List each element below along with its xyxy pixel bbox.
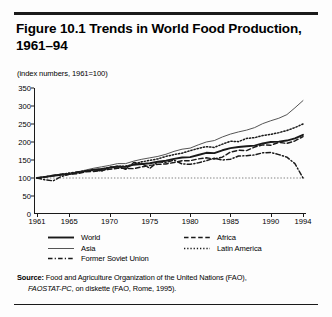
legend-item-world: World (48, 233, 149, 243)
bottom-rule (14, 304, 318, 305)
x-axis-tick-mark (230, 214, 231, 217)
legend-label: World (81, 233, 100, 242)
chart-plot-area: 0501001502002503003501961196519701975198… (34, 88, 306, 214)
legend-column-1: WorldAsiaFormer Soviet Union (48, 233, 149, 265)
series-line-latin-america (37, 124, 303, 178)
x-axis-tick-mark (37, 214, 38, 217)
source-text: Food and Agriculture Organization of the… (44, 273, 247, 282)
x-axis-tick-mark (303, 214, 304, 217)
legend-item-latin-america: Latin America (184, 244, 262, 254)
series-line-asia (37, 101, 303, 178)
y-axis-tick-mark (31, 106, 34, 107)
figure-container: Figure 10.1 Trends in World Food Product… (0, 0, 332, 317)
source-label: Source: (17, 273, 44, 282)
x-axis-tick-mark (110, 214, 111, 217)
legend-label: Former Soviet Union (81, 254, 149, 263)
legend-item-africa: Africa (184, 233, 262, 243)
legend-label: Latin America (217, 244, 262, 253)
legend-label: Africa (217, 233, 236, 242)
legend-swatch-icon (48, 254, 74, 263)
x-axis-tick-mark (69, 214, 70, 217)
y-axis-tick-mark (31, 124, 34, 125)
y-axis-tick-mark (31, 196, 34, 197)
series-line-former-soviet-union (37, 152, 303, 180)
legend-column-2: AfricaLatin America (184, 233, 262, 254)
source-tail: , on diskette (FAO, Rome, 1995). (71, 284, 176, 293)
source-note: Source: Food and Agriculture Organizatio… (17, 273, 318, 294)
legend-swatch-icon (184, 233, 210, 242)
y-axis-tick-mark (31, 178, 34, 179)
legend-swatch-icon (48, 233, 74, 242)
y-axis-tick-mark (31, 88, 34, 89)
x-axis-tick-mark (271, 214, 272, 217)
legend-item-asia: Asia (48, 244, 149, 254)
figure-title: Figure 10.1 Trends in World Food Product… (16, 20, 316, 55)
top-rule (14, 12, 318, 15)
y-axis-tick-mark (31, 160, 34, 161)
source-publication: FAOSTAT-PC (28, 284, 71, 293)
axis-units-note: (index numbers, 1961=100) (17, 69, 108, 78)
source-continuation: FAOSTAT-PC, on diskette (FAO, Rome, 1995… (17, 284, 318, 295)
y-axis-tick-mark (31, 142, 34, 143)
legend-swatch-icon (184, 244, 210, 253)
legend-swatch-icon (48, 244, 74, 253)
legend-item-former-soviet-union: Former Soviet Union (48, 254, 149, 264)
x-axis-tick-mark (150, 214, 151, 217)
series-lines (34, 88, 306, 214)
legend-label: Asia (81, 244, 95, 253)
x-axis-tick-mark (190, 214, 191, 217)
